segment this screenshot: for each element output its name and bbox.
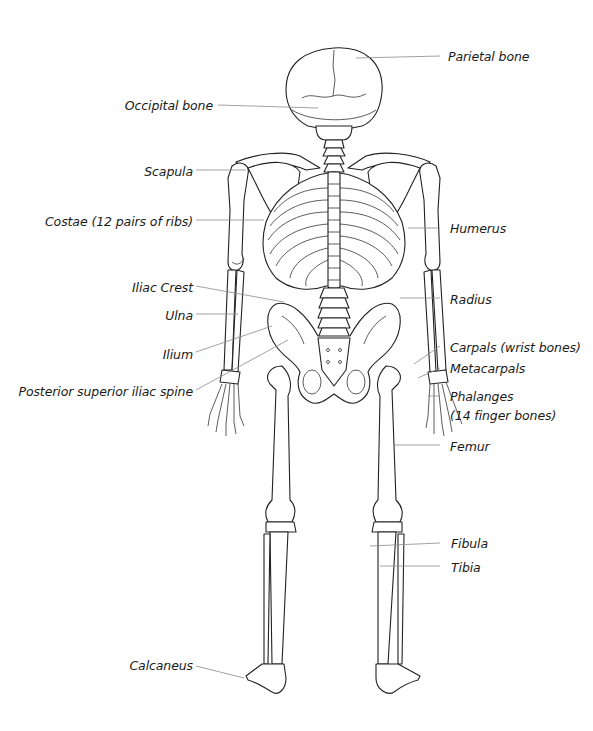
right-leg [372, 366, 420, 693]
label-phalanges-note: (14 finger bones) [450, 408, 556, 423]
label-costae: Costae (12 pairs of ribs) [8, 214, 193, 229]
cervical-spine [323, 140, 345, 172]
left-fibula [264, 534, 270, 664]
label-calcaneus: Calcaneus [8, 658, 193, 673]
label-ilium: Ilium [8, 347, 193, 362]
right-foot [376, 664, 420, 693]
label-fibula: Fibula [451, 536, 488, 551]
label-femur: Femur [450, 439, 490, 454]
label-humerus: Humerus [450, 221, 506, 236]
skeleton-diagram: Occipital bone Scapula Costae (12 pairs … [0, 0, 593, 731]
left-leg [246, 366, 296, 693]
label-tibia: Tibia [451, 560, 481, 575]
left-tibia [270, 532, 288, 664]
left-arm [208, 163, 248, 436]
label-posterior-superior-iliac-spine: Posterior superior iliac spine [8, 384, 193, 399]
left-femur [266, 366, 295, 522]
skull [286, 48, 382, 140]
right-fibula [398, 534, 404, 664]
label-occipital-bone: Occipital bone [8, 98, 213, 113]
label-scapula: Scapula [8, 164, 193, 179]
right-tibia [378, 532, 396, 664]
label-radius: Radius [450, 292, 492, 307]
label-carpals: Carpals (wrist bones) [450, 340, 581, 355]
right-femur [373, 366, 402, 522]
label-phalanges: Phalanges [450, 389, 513, 404]
label-metacarpals: Metacarpals [450, 361, 525, 376]
label-iliac-crest: Iliac Crest [8, 280, 193, 295]
left-carpals [220, 370, 240, 384]
label-parietal-bone: Parietal bone [448, 49, 529, 64]
label-ulna: Ulna [8, 308, 193, 323]
left-knee [266, 522, 296, 532]
left-foot [246, 664, 286, 693]
right-knee [372, 522, 402, 532]
